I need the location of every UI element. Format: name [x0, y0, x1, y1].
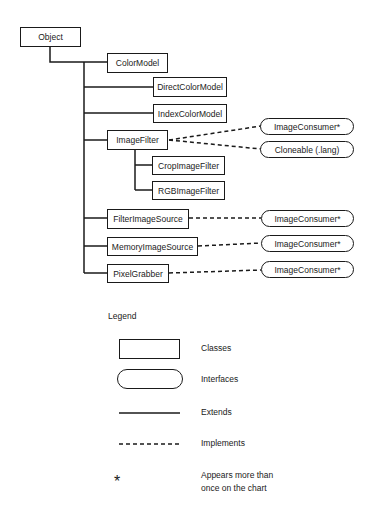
class-object: Object — [20, 27, 81, 47]
interface-image-consumer: ImageConsumer* — [260, 118, 354, 135]
legend-interfaces-label: Interfaces — [201, 373, 238, 386]
legend-star-line2: once on the chart — [201, 482, 267, 495]
class-color-model: ColorModel — [107, 53, 168, 73]
class-image-filter: ImageFilter — [107, 130, 168, 150]
legend-extends-label: Extends — [201, 406, 232, 419]
star-icon: * — [114, 474, 120, 490]
legend-star-line1: Appears more than — [201, 469, 273, 482]
legend-interface-swatch — [117, 369, 183, 389]
interface-image-consumer: ImageConsumer* — [261, 210, 354, 227]
class-crop-image-filter: CropImageFilter — [152, 156, 225, 175]
legend-title: Legend — [108, 310, 136, 323]
class-memory-image-source: MemoryImageSource — [107, 237, 198, 256]
class-direct-color-model: DirectColorModel — [153, 77, 227, 97]
class-pixel-grabber: PixelGrabber — [107, 264, 169, 283]
class-rgb-image-filter: RGBImageFilter — [152, 181, 225, 200]
interface-image-consumer: ImageConsumer* — [261, 235, 354, 252]
interface-image-consumer: ImageConsumer* — [261, 261, 354, 278]
legend-class-swatch — [119, 339, 180, 359]
interface-cloneable: Cloneable (.lang) — [260, 141, 354, 158]
legend-classes-label: Classes — [201, 342, 231, 355]
legend-implements-label: Implements — [201, 437, 245, 450]
class-filter-image-source: FilterImageSource — [107, 209, 189, 229]
class-index-color-model: IndexColorModel — [153, 104, 227, 123]
